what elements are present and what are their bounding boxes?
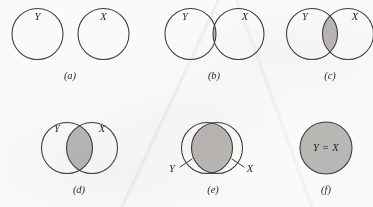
panel-d-y-label: Y	[54, 123, 61, 134]
panel-e-x-leader-line	[232, 159, 244, 167]
panel-e-x-label: X	[246, 163, 254, 174]
panel-c-caption: (c)	[324, 70, 336, 82]
panel-b: Y X (b)	[165, 9, 264, 83]
panel-e-y-label: Y	[169, 163, 176, 174]
panel-b-y-circle	[165, 9, 216, 60]
panel-c-x-label: X	[351, 11, 359, 22]
panel-a: Y X (a)	[12, 9, 129, 83]
panel-c-y-label: Y	[302, 11, 309, 22]
panel-f: Y = X (f)	[300, 122, 352, 196]
panel-a-y-label: Y	[35, 11, 42, 22]
venn-diagram-canvas: Y X (a) Y X (b) Y X (c)	[0, 0, 373, 207]
panel-a-caption: (a)	[64, 70, 77, 82]
panel-f-caption: (f)	[321, 184, 331, 196]
panel-d-x-label: X	[98, 123, 106, 134]
panel-e-caption: (e)	[207, 184, 219, 196]
panel-c: Y X (c)	[287, 9, 373, 83]
panel-f-equality-label: Y = X	[313, 142, 339, 153]
panel-b-x-label: X	[241, 11, 249, 22]
panel-b-caption: (b)	[208, 70, 221, 82]
panel-e-y-leader-line	[180, 159, 192, 167]
panel-d: Y X (d)	[42, 123, 118, 197]
panel-b-x-circle	[213, 9, 264, 60]
venn-figure: Y X (a) Y X (b) Y X (c)	[0, 0, 373, 207]
panel-d-caption: (d)	[73, 184, 86, 196]
panel-b-y-label: Y	[182, 11, 189, 22]
panel-e: Y X (e)	[169, 123, 254, 197]
panel-a-x-label: X	[99, 11, 107, 22]
